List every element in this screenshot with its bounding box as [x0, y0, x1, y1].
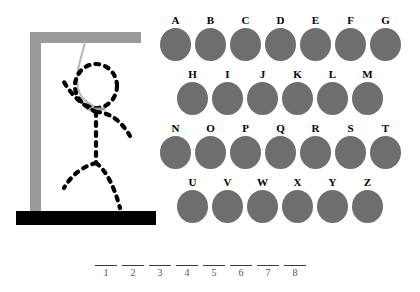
letter-disc-icon[interactable] [352, 190, 383, 223]
letter-button-h[interactable]: H [177, 68, 212, 118]
letter-button-s[interactable]: S [335, 122, 370, 172]
letter-label: W [247, 176, 278, 188]
letter-label: U [177, 176, 208, 188]
letter-label: D [265, 14, 296, 26]
word-slot-line [284, 265, 306, 266]
letter-disc-icon[interactable] [317, 190, 348, 223]
letter-button-p[interactable]: P [230, 122, 265, 172]
letter-button-n[interactable]: N [160, 122, 195, 172]
letter-disc-icon[interactable] [300, 28, 331, 61]
letter-disc-icon[interactable] [335, 28, 366, 61]
letter-label: N [160, 122, 191, 134]
word-slot: 6 [228, 265, 254, 278]
letter-label: S [335, 122, 366, 134]
letter-label: O [195, 122, 226, 134]
word-slot-number: 1 [93, 267, 119, 278]
letter-label: Z [352, 176, 383, 188]
letter-label: F [335, 14, 366, 26]
letter-disc-icon[interactable] [282, 82, 313, 115]
letter-button-g[interactable]: G [370, 14, 405, 64]
alphabet-row: ABCDEFG [160, 14, 405, 64]
letter-label: L [317, 68, 348, 80]
letter-disc-icon[interactable] [247, 190, 278, 223]
alphabet-row: NOPQRST [160, 122, 405, 172]
letter-button-d[interactable]: D [265, 14, 300, 64]
word-blanks: 12345678 [93, 262, 313, 288]
word-slot-line [176, 265, 198, 266]
letter-label: E [300, 14, 331, 26]
letter-disc-icon[interactable] [300, 136, 331, 169]
letter-disc-icon[interactable] [212, 190, 243, 223]
letter-disc-icon[interactable] [177, 82, 208, 115]
hangman-game: ABCDEFG HIJKLM NOPQRST UVWXYZ 12345678 [0, 0, 420, 292]
word-slot: 3 [147, 265, 173, 278]
letter-disc-icon[interactable] [230, 28, 261, 61]
letter-disc-icon[interactable] [247, 82, 278, 115]
letter-disc-icon[interactable] [195, 136, 226, 169]
word-slot-line [122, 265, 144, 266]
word-slot-number: 6 [228, 267, 254, 278]
letter-disc-icon[interactable] [370, 136, 401, 169]
letter-label: M [352, 68, 383, 80]
alphabet-grid: ABCDEFG HIJKLM NOPQRST UVWXYZ [160, 14, 420, 236]
letter-label: R [300, 122, 331, 134]
letter-button-m[interactable]: M [352, 68, 387, 118]
word-slot-line [203, 265, 225, 266]
letter-button-v[interactable]: V [212, 176, 247, 226]
letter-disc-icon[interactable] [265, 28, 296, 61]
letter-button-x[interactable]: X [282, 176, 317, 226]
letter-button-e[interactable]: E [300, 14, 335, 64]
letter-disc-icon[interactable] [282, 190, 313, 223]
word-slot-number: 5 [201, 267, 227, 278]
figure-right-arm-icon [96, 112, 130, 136]
letter-label: X [282, 176, 313, 188]
word-slot-number: 7 [255, 267, 281, 278]
word-slot-line [257, 265, 279, 266]
letter-disc-icon[interactable] [160, 136, 191, 169]
gallows-drawing [0, 0, 160, 240]
letter-button-a[interactable]: A [160, 14, 195, 64]
letter-button-k[interactable]: K [282, 68, 317, 118]
letter-label: C [230, 14, 261, 26]
letter-button-o[interactable]: O [195, 122, 230, 172]
alphabet-row: HIJKLM [177, 68, 387, 118]
letter-disc-icon[interactable] [265, 136, 296, 169]
letter-disc-icon[interactable] [230, 136, 261, 169]
letter-disc-icon[interactable] [317, 82, 348, 115]
letter-disc-icon[interactable] [212, 82, 243, 115]
word-slot-line [95, 265, 117, 266]
letter-label: J [247, 68, 278, 80]
letter-button-f[interactable]: F [335, 14, 370, 64]
letter-button-j[interactable]: J [247, 68, 282, 118]
alphabet-row: UVWXYZ [177, 176, 387, 226]
letter-button-b[interactable]: B [195, 14, 230, 64]
word-slot: 4 [174, 265, 200, 278]
letter-disc-icon[interactable] [335, 136, 366, 169]
word-slot-number: 8 [282, 267, 308, 278]
letter-button-t[interactable]: T [370, 122, 405, 172]
gallows-post-icon [30, 32, 41, 215]
letter-button-u[interactable]: U [177, 176, 212, 226]
word-slot: 1 [93, 265, 119, 278]
letter-button-w[interactable]: W [247, 176, 282, 226]
letter-disc-icon[interactable] [160, 28, 191, 61]
letter-disc-icon[interactable] [195, 28, 226, 61]
letter-button-l[interactable]: L [317, 68, 352, 118]
letter-button-z[interactable]: Z [352, 176, 387, 226]
letter-label: Y [317, 176, 348, 188]
letter-button-i[interactable]: I [212, 68, 247, 118]
word-slot-number: 2 [120, 267, 146, 278]
letter-label: P [230, 122, 261, 134]
letter-label: Q [265, 122, 296, 134]
letter-label: B [195, 14, 226, 26]
word-slot: 5 [201, 265, 227, 278]
letter-button-r[interactable]: R [300, 122, 335, 172]
letter-button-c[interactable]: C [230, 14, 265, 64]
letter-disc-icon[interactable] [370, 28, 401, 61]
letter-disc-icon[interactable] [177, 190, 208, 223]
word-slot: 8 [282, 265, 308, 278]
letter-button-q[interactable]: Q [265, 122, 300, 172]
letter-disc-icon[interactable] [352, 82, 383, 115]
letter-label: A [160, 14, 191, 26]
letter-button-y[interactable]: Y [317, 176, 352, 226]
